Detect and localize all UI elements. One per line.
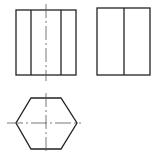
top-view (7, 93, 81, 154)
orthographic-drawing (0, 0, 160, 167)
side-view (97, 8, 150, 75)
front-view (16, 4, 76, 81)
hexagon-outline (16, 98, 77, 149)
